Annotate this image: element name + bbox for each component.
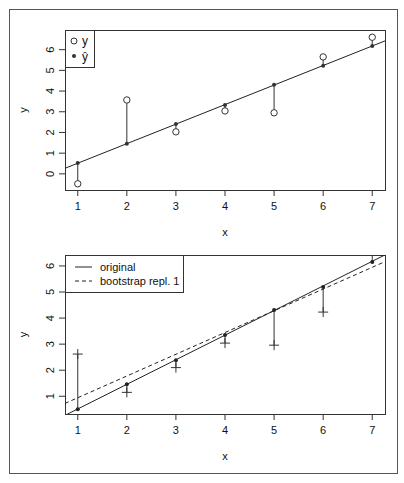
x-tick-label: 4: [222, 424, 228, 436]
x-tick-label: 6: [320, 200, 326, 212]
y-tick-label: 1: [44, 150, 56, 156]
y-tick-label: 2: [44, 367, 56, 373]
top-plot: 12345670123456xyyŷ: [17, 31, 386, 239]
fitted-point: [370, 260, 374, 264]
bootstrap-point: [367, 245, 377, 255]
fitted-point: [272, 83, 276, 87]
fitted-point: [174, 122, 178, 126]
y-tick-label: 1: [44, 393, 56, 399]
fitted-point: [321, 285, 325, 289]
legend: originalbootstrap repl. 1: [66, 256, 184, 293]
bottom-plot: 1234567123456xyoriginalbootstrap repl. 1: [17, 245, 386, 462]
legend-dot-icon: [72, 54, 76, 58]
legend-label: bootstrap repl. 1: [100, 275, 180, 287]
x-tick-label: 7: [369, 424, 375, 436]
plot-area: [65, 34, 385, 187]
observed-point: [320, 54, 326, 60]
y-tick-label: 3: [44, 109, 56, 115]
bootstrap-point: [220, 338, 230, 348]
observed-point: [173, 129, 179, 135]
x-axis-label: x: [222, 226, 228, 238]
legend-label: y: [82, 34, 88, 48]
x-tick-label: 5: [271, 200, 277, 212]
y-tick-label: 6: [44, 263, 56, 269]
fitted-point: [125, 382, 129, 386]
figure: 12345670123456xyyŷ 1234567123456xyorigin…: [0, 0, 404, 483]
fitted-point: [76, 407, 80, 411]
observed-point: [222, 108, 228, 114]
observed-point: [124, 97, 130, 103]
bootstrap-point: [171, 363, 181, 373]
fitted-point: [125, 142, 129, 146]
y-axis-label: y: [17, 331, 29, 337]
x-tick-label: 6: [320, 424, 326, 436]
y-axis-label: y: [17, 107, 29, 113]
observed-point: [369, 34, 375, 40]
x-tick-label: 2: [124, 200, 130, 212]
legend-label: original: [100, 261, 135, 273]
x-axis-label: x: [222, 450, 228, 462]
y-tick-label: 4: [44, 88, 56, 94]
legend-box: [66, 31, 95, 68]
bootstrap-point: [318, 307, 328, 317]
fitted-point: [321, 64, 325, 68]
outer-frame: [10, 10, 398, 474]
legend: yŷ: [66, 31, 95, 68]
fitted-point: [174, 358, 178, 362]
observed-point: [271, 110, 277, 116]
fitted-point: [272, 308, 276, 312]
fitted-point: [223, 333, 227, 337]
observed-point: [75, 181, 81, 187]
legend-circle-icon: [71, 38, 77, 44]
y-tick-label: 0: [44, 171, 56, 177]
y-tick-label: 6: [44, 47, 56, 53]
bootstrap-point: [269, 340, 279, 350]
y-tick-label: 2: [44, 129, 56, 135]
x-tick-label: 1: [75, 424, 81, 436]
x-tick-label: 7: [369, 200, 375, 212]
y-tick-label: 3: [44, 341, 56, 347]
x-tick-label: 2: [124, 424, 130, 436]
fitted-point: [370, 44, 374, 48]
y-tick-label: 4: [44, 315, 56, 321]
y-tick-label: 5: [44, 289, 56, 295]
x-tick-label: 1: [75, 200, 81, 212]
bootstrap-point: [73, 349, 83, 359]
y-tick-label: 5: [44, 67, 56, 73]
x-tick-label: 3: [173, 424, 179, 436]
x-tick-label: 3: [173, 200, 179, 212]
legend-label: ŷ: [82, 50, 88, 64]
fitted-point: [223, 103, 227, 107]
fitted-point: [76, 161, 80, 165]
x-tick-label: 5: [271, 424, 277, 436]
bootstrap-point: [122, 387, 132, 397]
x-tick-label: 4: [222, 200, 228, 212]
